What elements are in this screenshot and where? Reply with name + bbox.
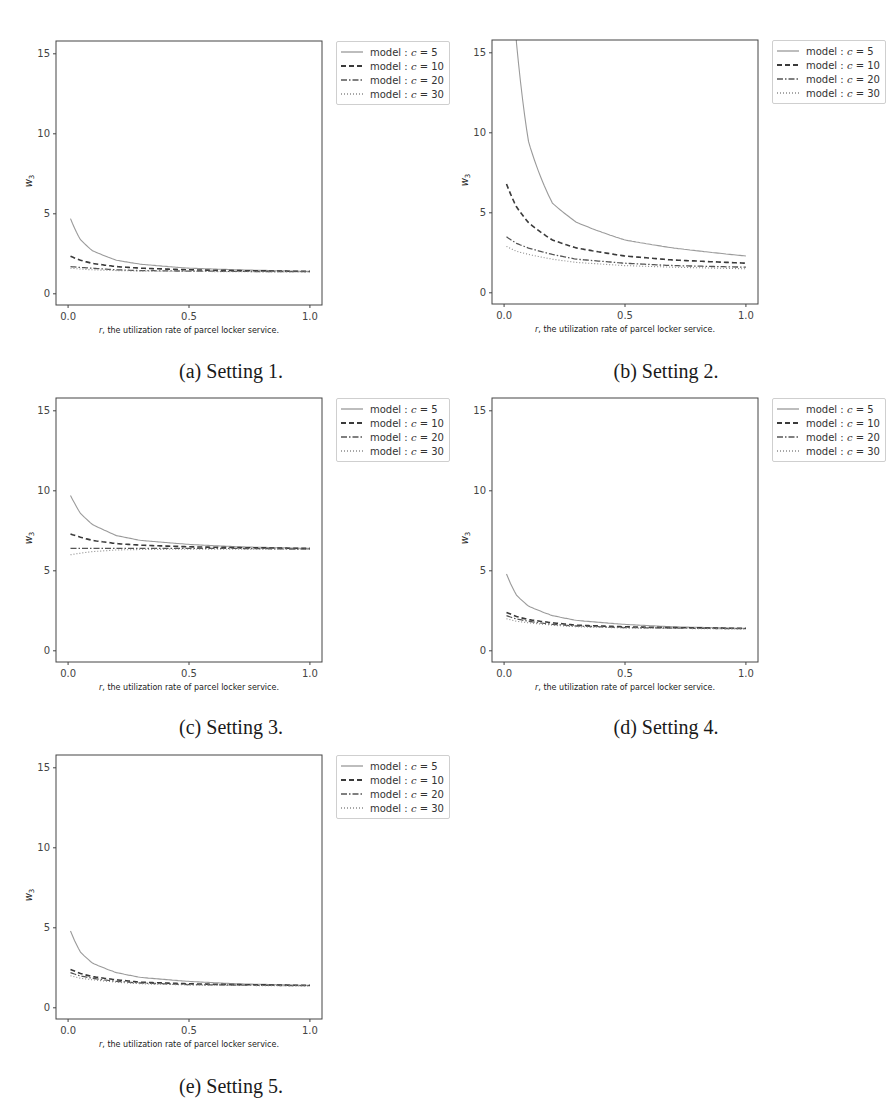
series-line-c5 (71, 931, 310, 985)
legend-item: model : c = 30 (341, 801, 444, 815)
y-tick-label: 15 (37, 762, 50, 773)
chart-legend: model : c = 5model : c = 10model : c = 2… (336, 755, 450, 819)
series-line-c10 (71, 969, 310, 985)
legend-item: model : c = 20 (341, 787, 444, 801)
x-axis-label: r, the utilization rate of parcel locker… (99, 1040, 279, 1049)
legend-line-dashdot-icon (341, 791, 363, 797)
legend-line-dotted-icon (341, 805, 363, 811)
y-tick-label: 0 (44, 1002, 50, 1013)
y-axis-label: w3 (23, 889, 36, 902)
x-tick-label: 0.5 (181, 1025, 197, 1036)
legend-item: model : c = 5 (341, 759, 444, 773)
plot-frame (56, 755, 322, 1019)
legend-item: model : c = 10 (341, 773, 444, 787)
legend-label: model : c = 30 (370, 803, 444, 814)
y-tick-label: 10 (37, 842, 50, 853)
chart-svg: 0510150.00.51.0r, the utilization rate o… (0, 0, 896, 1109)
y-tick-label: 5 (44, 922, 50, 933)
x-tick-label: 0.0 (60, 1025, 76, 1036)
legend-label: model : c = 20 (370, 789, 444, 800)
legend-line-solid-icon (341, 763, 363, 769)
chart-panel-e: 0510150.00.51.0r, the utilization rate o… (0, 0, 896, 1109)
x-tick-label: 1.0 (302, 1025, 318, 1036)
legend-label: model : c = 10 (370, 775, 444, 786)
panel-caption: (e) Setting 5. (179, 1075, 283, 1098)
legend-line-dashed-icon (341, 777, 363, 783)
legend-label: model : c = 5 (370, 761, 438, 772)
